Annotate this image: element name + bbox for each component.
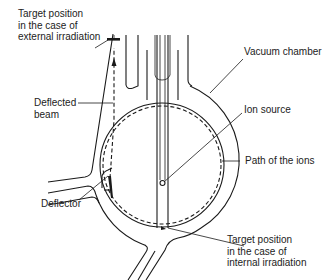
deflected-beam (107, 35, 120, 178)
external-target-marker (107, 38, 120, 41)
ion-path (100, 103, 224, 227)
label-target-internal: Target position in the case of internal … (227, 234, 307, 269)
label-deflector: Deflector (41, 198, 81, 210)
label-ion-source: Ion source (244, 104, 291, 116)
label-path-of-ions: Path of the ions (245, 155, 315, 167)
leader-lines (78, 40, 244, 246)
label-deflected-beam: Deflected beam (34, 97, 76, 120)
label-target-external: Target position in the case of external … (18, 8, 100, 43)
beam-arrow-icon (112, 58, 117, 66)
label-vacuum-chamber: Vacuum chamber (244, 46, 322, 58)
cyclotron-diagram: Target position in the case of external … (0, 0, 335, 280)
ion-source-tube (155, 35, 170, 228)
